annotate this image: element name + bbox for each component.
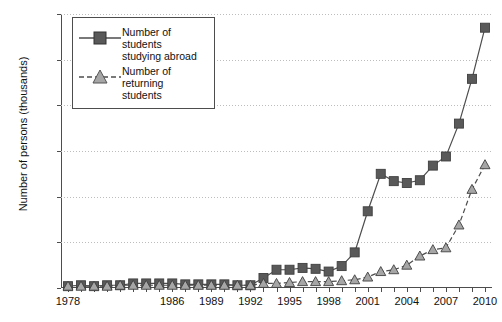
x-tick-label: 1995 bbox=[270, 295, 310, 307]
x-tick-mark bbox=[368, 288, 369, 292]
legend-label-studying-abroad: Number of students studying abroad bbox=[122, 25, 208, 62]
data-point-square bbox=[272, 265, 281, 274]
data-point-square bbox=[311, 264, 320, 273]
x-tick-mark bbox=[329, 288, 330, 292]
x-tick-mark bbox=[472, 288, 473, 292]
legend-label-line2: students bbox=[122, 89, 208, 101]
x-tick-mark bbox=[485, 288, 486, 292]
x-tick-mark bbox=[381, 288, 382, 292]
legend-label-line1: Number of students bbox=[122, 26, 208, 50]
x-tick-mark bbox=[394, 288, 395, 292]
x-tick-mark bbox=[355, 288, 356, 292]
data-point-square bbox=[428, 161, 437, 170]
x-tick-label: 1986 bbox=[152, 295, 192, 307]
x-tick-mark bbox=[303, 288, 304, 292]
data-point-triangle bbox=[389, 265, 399, 274]
data-point-triangle bbox=[454, 220, 464, 229]
x-tick-mark bbox=[277, 288, 278, 292]
data-point-square bbox=[376, 169, 385, 178]
data-point-triangle bbox=[376, 267, 386, 276]
x-tick-mark bbox=[420, 288, 421, 292]
data-point-triangle bbox=[298, 277, 308, 286]
data-point-triangle bbox=[402, 260, 412, 269]
data-point-square bbox=[402, 178, 411, 187]
data-point-triangle bbox=[363, 272, 373, 281]
data-point-triangle bbox=[441, 243, 451, 252]
x-tick-label: 2001 bbox=[348, 295, 388, 307]
x-tick-label: 2010 bbox=[465, 295, 502, 307]
data-point-square bbox=[415, 176, 424, 185]
data-point-triangle bbox=[337, 276, 347, 285]
legend-label-line2: studying abroad bbox=[122, 50, 208, 62]
data-point-square bbox=[467, 74, 476, 83]
data-point-square bbox=[441, 152, 450, 161]
chart-legend: Number of students studying abroad Numbe… bbox=[72, 17, 215, 109]
chart-figure: Number of persons (thousands) 0501001502… bbox=[0, 0, 502, 322]
data-point-square bbox=[298, 263, 307, 272]
x-tick-mark bbox=[433, 288, 434, 292]
data-point-triangle bbox=[428, 245, 438, 254]
x-tick-mark bbox=[263, 288, 264, 292]
data-point-square bbox=[285, 265, 294, 274]
x-tick-label: 1992 bbox=[230, 295, 270, 307]
x-tick-label: 1978 bbox=[48, 295, 88, 307]
x-tick-mark bbox=[290, 288, 291, 292]
data-point-square bbox=[481, 23, 490, 32]
legend-label-line1: Number of returning bbox=[122, 65, 208, 89]
x-tick-label: 1989 bbox=[191, 295, 231, 307]
legend-key-triangle-icon bbox=[78, 64, 122, 90]
legend-item-studying-abroad: Number of students studying abroad bbox=[78, 25, 208, 62]
data-point-square bbox=[324, 267, 333, 276]
data-point-triangle bbox=[467, 184, 477, 193]
data-point-triangle bbox=[415, 251, 425, 260]
x-tick-label: 2007 bbox=[426, 295, 466, 307]
data-point-square bbox=[454, 119, 463, 128]
x-tick-mark bbox=[407, 288, 408, 292]
data-point-triangle bbox=[480, 160, 490, 169]
x-tick-mark bbox=[342, 288, 343, 292]
legend-key-square-icon bbox=[78, 25, 122, 51]
x-tick-mark bbox=[446, 288, 447, 292]
data-point-square bbox=[337, 262, 346, 271]
y-tick-mark bbox=[57, 288, 61, 289]
data-point-square bbox=[363, 207, 372, 216]
legend-label-returning-students: Number of returning students bbox=[122, 64, 208, 101]
data-point-square bbox=[389, 177, 398, 186]
data-point-square bbox=[350, 248, 359, 257]
legend-item-returning-students: Number of returning students bbox=[78, 64, 208, 101]
x-tick-mark bbox=[459, 288, 460, 292]
y-axis-title: Number of persons (thousands) bbox=[17, 19, 29, 249]
x-tick-label: 2004 bbox=[387, 295, 427, 307]
x-tick-mark bbox=[316, 288, 317, 292]
x-tick-label: 1998 bbox=[309, 295, 349, 307]
